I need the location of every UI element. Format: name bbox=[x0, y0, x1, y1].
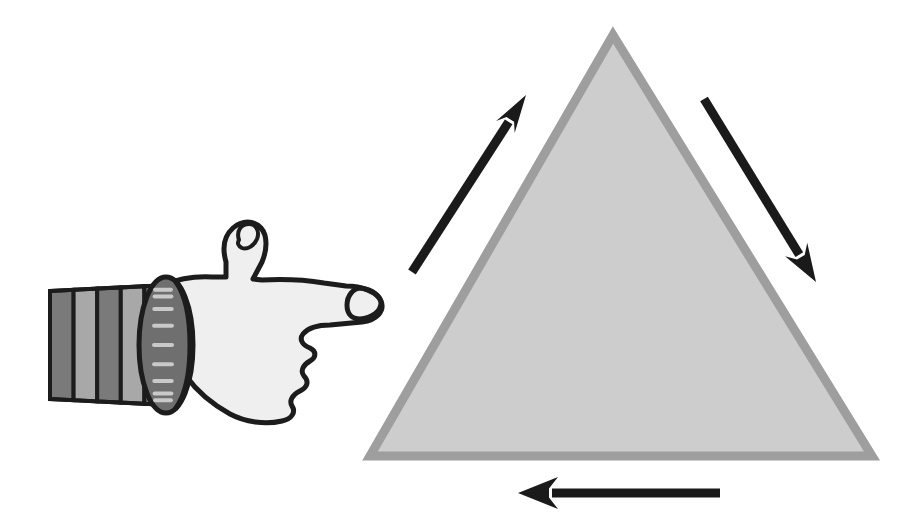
wristband-cuff bbox=[139, 277, 193, 413]
illustration-scene bbox=[0, 0, 915, 525]
sleeve-stripe bbox=[74, 289, 98, 402]
sleeve-stripe bbox=[97, 287, 121, 402]
sleeve-stripe bbox=[50, 290, 74, 400]
diagram-canvas bbox=[0, 0, 915, 525]
